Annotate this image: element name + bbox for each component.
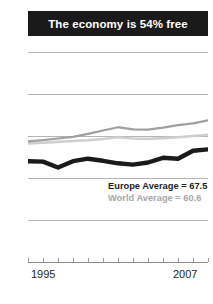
legend-item-europe-average: Europe Average = 67.5	[108, 181, 208, 193]
series-line-this-economy	[28, 149, 208, 167]
x-tick-mark	[88, 258, 89, 262]
x-tick-label-end: 2007	[173, 268, 197, 280]
x-tick-mark	[73, 258, 74, 262]
x-tick-mark	[208, 258, 209, 262]
x-tick-mark	[118, 258, 119, 262]
x-axis-line	[28, 262, 208, 263]
x-tick-mark	[103, 258, 104, 262]
x-tick-mark	[28, 258, 29, 262]
x-tick-mark	[148, 258, 149, 262]
x-tick-mark	[193, 258, 194, 262]
chart-figure: The economy is 54% free 100 80 60 40 20 …	[0, 0, 213, 304]
x-tick-mark	[178, 258, 179, 262]
chart-legend: Europe Average = 67.5 World Average = 60…	[108, 181, 208, 204]
x-tick-mark	[133, 258, 134, 262]
legend-item-world-average: World Average = 60.6	[108, 193, 208, 205]
series-lines-svg	[28, 52, 208, 262]
x-tick-mark	[43, 258, 44, 262]
x-tick-mark	[58, 258, 59, 262]
plot-area	[28, 52, 208, 262]
chart-title-banner: The economy is 54% free	[28, 11, 208, 36]
page-title: The economy is 54% free	[48, 18, 188, 30]
x-tick-mark	[163, 258, 164, 262]
x-tick-label-start: 1995	[31, 268, 55, 280]
